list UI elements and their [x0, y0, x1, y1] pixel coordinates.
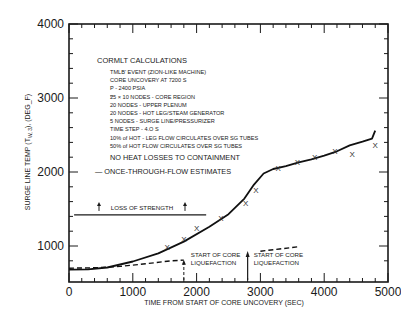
x-tick-label: 3000	[247, 285, 274, 299]
y-tick-label: 3000	[37, 91, 64, 105]
legend-line: TIME STEP - 4.O S	[110, 126, 159, 132]
legend-line: 50% of HOT FLOW CIRCULATES OVER SG TUBES	[110, 143, 242, 149]
data-point-x-marker: X	[194, 224, 200, 233]
legend-dashed-entry: — ONCE-THROUGH-FLOW ESTIMATES	[95, 167, 231, 176]
legend-note: NO HEAT LOSSES TO CONTAINMENT	[110, 153, 240, 162]
liquefaction-1-label-line1: START OF CORE	[191, 251, 241, 258]
legend-line: 5 NODES - SURGE LINE/PRESSURIZER	[110, 118, 215, 124]
legend-line: CORE UNCOVERY AT 7200 S	[110, 77, 187, 83]
y-axis-label-suffix: ), (DEG_F)	[24, 94, 32, 128]
liquefaction-1-label-line2: LIQUEFACTION	[191, 259, 236, 266]
data-point-x-marker: X	[350, 150, 356, 159]
data-point-x-marker: X	[165, 243, 171, 252]
chart: 0100020003000400050001000200030004000 TI…	[0, 0, 401, 322]
x-tick-label: 5000	[375, 285, 401, 299]
data-point-x-marker: X	[332, 147, 338, 156]
data-point-x-marker: X	[373, 141, 379, 150]
data-point-x-marker: X	[276, 164, 282, 173]
legend-line: 10% of HOT - LEG FLOW CIRCULATES OVER SG…	[110, 135, 259, 141]
legend-line: 20 NODES - UPPER PLENUM	[110, 102, 187, 108]
y-tick-label: 2000	[37, 165, 64, 179]
x-tick-label: 2000	[183, 285, 210, 299]
legend-line: P - 2400 PSIA	[110, 85, 146, 91]
x-tick-label: 0	[66, 285, 73, 299]
data-point-x-marker: X	[243, 199, 249, 208]
x-tick-label: 1000	[119, 285, 146, 299]
y-axis-label-prefix: SURGE LINE TEMP (T	[24, 137, 32, 210]
data-point-x-marker: X	[181, 235, 187, 244]
loss-of-strength-label: LOSS OF STRENGTH	[111, 204, 174, 211]
data-point-x-marker: X	[253, 186, 259, 195]
liquefaction-2-label-line1: START OF CORE	[254, 251, 304, 258]
y-tick-label: 4000	[37, 17, 64, 31]
legend-title: CORMLT CALCULATIONS	[97, 56, 187, 65]
y-axis-label-sub: W, 3	[27, 128, 33, 138]
data-point-x-marker: X	[218, 214, 224, 223]
x-tick-label: 4000	[311, 285, 338, 299]
legend-line: 25 × 10 NODES - CORE REGION	[110, 94, 195, 100]
x-axis-label: TIME FROM START OF CORE UNCOVERY (SEC)	[144, 299, 304, 307]
legend-line: TMLB' EVENT (ZION-LIKE MACHINE)	[110, 69, 206, 75]
data-point-x-marker: X	[312, 153, 318, 162]
data-point-x-marker: X	[295, 158, 301, 167]
y-tick-label: 1000	[37, 239, 64, 253]
legend-line: 20 NODES - HOT LEG/STEAM GENERATOR	[110, 110, 224, 116]
liquefaction-2-label-line2: LIQUEFACTION	[254, 259, 299, 266]
